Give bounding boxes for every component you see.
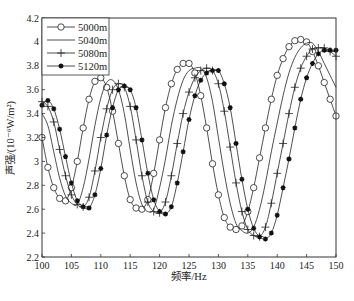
circle-marker	[156, 137, 162, 143]
star-marker-dot	[299, 98, 302, 101]
y-tick-label: 2.6	[27, 204, 40, 215]
circle-marker	[286, 43, 292, 49]
legend-label: 5120m	[78, 61, 107, 72]
circle-marker	[256, 155, 262, 161]
circle-marker	[168, 81, 174, 87]
plus-marker	[132, 136, 140, 144]
star-marker-dot	[158, 210, 161, 213]
plus-marker	[273, 169, 281, 177]
star-marker-dot	[188, 118, 191, 121]
legend: 5000m5040m5080m5120m	[42, 18, 109, 75]
star-marker-dot	[258, 235, 261, 238]
star-marker-dot	[317, 52, 320, 55]
circle-marker	[262, 125, 268, 131]
circle-marker	[227, 224, 233, 230]
circle-marker	[186, 60, 192, 66]
circle-marker	[121, 173, 127, 179]
star-marker-dot	[182, 150, 185, 153]
plus-marker	[285, 110, 293, 118]
star-marker-dot	[129, 88, 132, 91]
circle-marker	[280, 55, 286, 61]
plus-marker	[97, 134, 105, 142]
circle-marker	[115, 140, 121, 146]
circle-marker	[215, 192, 221, 198]
plus-marker	[303, 52, 311, 60]
plus-marker	[220, 107, 228, 115]
circle-marker	[51, 184, 57, 190]
circle-marker	[56, 195, 62, 201]
star-marker-dot	[82, 205, 85, 208]
circle-marker	[80, 125, 86, 131]
x-tick-label: 145	[299, 260, 314, 271]
intensity-frequency-chart: 1001051101151201251301351401451502.22.42…	[0, 0, 354, 301]
plus-marker	[291, 83, 299, 91]
star-marker-dot	[288, 158, 291, 161]
star-marker-dot	[76, 199, 79, 202]
y-tick-label: 3.8	[27, 60, 40, 71]
star-marker-dot	[311, 62, 314, 65]
x-tick-label: 135	[240, 260, 255, 271]
star-marker-dot	[323, 49, 326, 52]
circle-marker	[58, 24, 64, 30]
star-marker-dot	[252, 227, 255, 230]
star-marker-dot	[282, 186, 285, 189]
plus-marker	[185, 88, 193, 96]
legend-label: 5080m	[78, 48, 107, 59]
x-tick-label: 125	[182, 260, 197, 271]
y-tick-label: 3.2	[27, 132, 40, 143]
circle-marker	[327, 96, 333, 102]
plus-marker	[214, 80, 222, 88]
legend-label: 5000m	[78, 22, 107, 33]
circle-marker	[74, 158, 80, 164]
circle-marker	[268, 96, 274, 102]
legend-label: 5040m	[78, 35, 107, 46]
star-marker-dot	[58, 128, 61, 131]
star-marker-dot	[46, 99, 49, 102]
plus-marker	[138, 172, 146, 180]
y-tick-label: 2.8	[27, 180, 40, 191]
circle-marker	[209, 161, 215, 167]
circle-marker	[127, 196, 133, 202]
plus-marker	[267, 199, 275, 207]
y-tick-label: 2.4	[27, 228, 40, 239]
star-marker-dot	[105, 134, 108, 137]
x-tick-label: 110	[93, 260, 108, 271]
circle-marker	[174, 66, 180, 72]
star-marker-dot	[199, 79, 202, 82]
plus-marker	[161, 198, 169, 206]
circle-marker	[180, 60, 186, 66]
x-tick-label: 105	[64, 260, 79, 271]
x-tick-label: 150	[329, 260, 344, 271]
plus-marker	[91, 167, 99, 175]
circle-marker	[274, 72, 280, 78]
circle-marker	[45, 164, 51, 170]
star-marker-dot	[229, 106, 232, 109]
plus-marker	[297, 64, 305, 72]
star-marker-dot	[117, 88, 120, 91]
x-tick-label: 115	[123, 260, 138, 271]
star-marker-dot	[264, 238, 267, 241]
y-axis-title: 声强/(10⁻⁶W/m²)	[4, 100, 17, 175]
circle-marker	[92, 78, 98, 84]
star-marker-dot	[111, 106, 114, 109]
star-marker-dot	[60, 65, 63, 68]
star-marker-dot	[70, 182, 73, 185]
circle-marker	[221, 214, 227, 220]
star-marker-dot	[246, 208, 249, 211]
star-marker-dot	[146, 172, 149, 175]
star-marker-dot	[305, 76, 308, 79]
circle-marker	[133, 205, 139, 211]
star-marker-dot	[293, 127, 296, 130]
plus-marker	[238, 208, 246, 216]
star-marker-dot	[94, 193, 97, 196]
star-marker-dot	[217, 69, 220, 72]
plus-marker	[173, 139, 181, 147]
y-tick-label: 4	[34, 36, 39, 47]
plus-marker	[261, 223, 269, 231]
circle-marker	[298, 36, 304, 42]
star-marker-dot	[141, 138, 144, 141]
circle-marker	[315, 63, 321, 69]
plus-marker	[56, 145, 64, 153]
circle-marker	[321, 79, 327, 85]
plus-marker	[232, 179, 240, 187]
